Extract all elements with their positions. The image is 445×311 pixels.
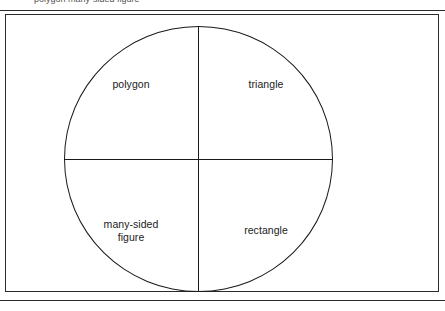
- top-page-rule: [0, 10, 445, 11]
- running-head: polygon many-sided figure: [34, 0, 294, 5]
- quadrant-label-lower-right: rectangle: [244, 224, 288, 237]
- quadrant-upper-left: polygon: [64, 26, 198, 159]
- quadrant-label-lower-left: many-sided figure: [104, 218, 159, 244]
- quadrant-lower-right: rectangle: [199, 160, 333, 293]
- quadrant-label-upper-left: polygon: [112, 78, 149, 91]
- figure-box: polygon triangle many-sided figure recta…: [5, 14, 439, 292]
- circle-diagram: polygon triangle many-sided figure recta…: [64, 26, 333, 292]
- page: polygon many-sided figure polygon triang…: [0, 0, 445, 311]
- quadrant-lower-left: many-sided figure: [64, 160, 198, 293]
- bottom-page-rule: [0, 300, 445, 301]
- quadrant-label-upper-right: triangle: [249, 78, 284, 91]
- quadrant-upper-right: triangle: [199, 26, 333, 159]
